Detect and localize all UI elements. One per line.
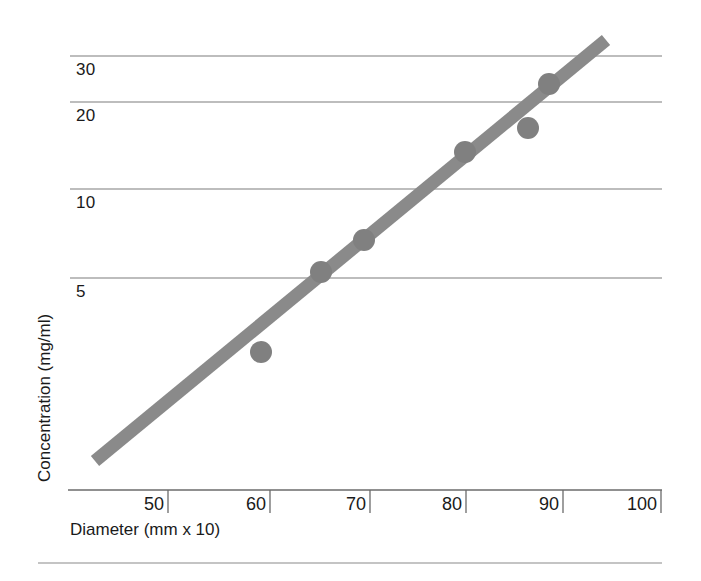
data-point [250,341,272,363]
y-axis-title: Concentration (mg/ml) [35,314,55,482]
regression-line [95,40,606,461]
data-point [310,261,332,283]
x-tick-label-90: 90 [503,494,559,515]
data-point [353,229,375,251]
data-point [454,141,476,163]
y-tick-label-5: 5 [76,282,86,302]
chart-figure: 30 20 10 5 50 60 70 80 90 100 Diameter (… [0,0,701,581]
x-tick-label-80: 80 [406,494,462,515]
y-tick-label-10: 10 [76,193,95,213]
x-tick-label-50: 50 [108,494,164,515]
y-tick-label-30: 30 [76,60,95,80]
x-tick-label-60: 60 [210,494,266,515]
data-point [517,117,539,139]
regression-line-stroke [95,40,606,461]
y-tick-label-20: 20 [76,106,95,126]
data-point [538,73,560,95]
x-tick-label-100: 100 [592,494,657,515]
x-tick-label-70: 70 [310,494,366,515]
x-axis-title: Diameter (mm x 10) [70,520,220,540]
